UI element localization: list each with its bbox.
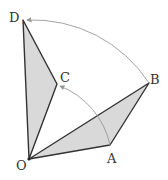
rotation-diagram: D C B A O	[0, 0, 168, 180]
label-A: A	[106, 151, 117, 166]
label-D: D	[9, 10, 19, 25]
label-B: B	[150, 72, 160, 87]
point-O-dot	[27, 157, 30, 160]
label-C: C	[60, 70, 70, 85]
triangle-OCD	[23, 20, 57, 159]
label-O: O	[16, 158, 27, 173]
